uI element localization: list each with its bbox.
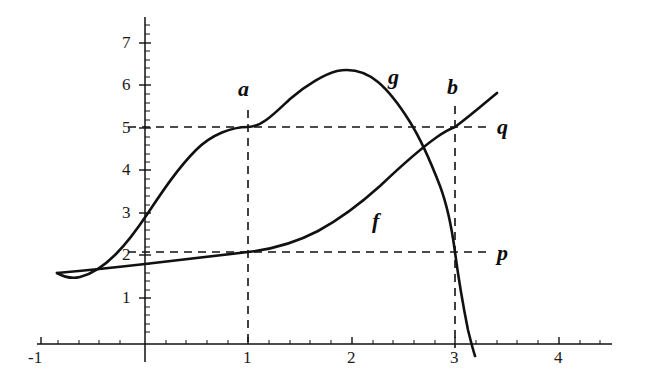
y-tick-label-4: 4 bbox=[122, 160, 131, 180]
function-plot-figure: -1 1 2 3 4 1 2 3 4 5 6 7 a b p q f g bbox=[0, 0, 651, 391]
annotation-label-f: f bbox=[372, 208, 379, 234]
annotation-label-g: g bbox=[388, 64, 399, 90]
annotation-label-q: q bbox=[497, 114, 508, 140]
y-tick-label-5: 5 bbox=[122, 118, 131, 138]
y-tick-label-2: 2 bbox=[122, 245, 131, 265]
plot-canvas bbox=[0, 0, 651, 391]
annotation-label-b: b bbox=[447, 74, 458, 100]
y-tick-label-1: 1 bbox=[122, 288, 131, 308]
y-tick-label-6: 6 bbox=[122, 75, 131, 95]
x-tick-label-1: 1 bbox=[243, 348, 252, 368]
x-axis-major-ticks bbox=[41, 337, 559, 344]
x-tick-label-2: 2 bbox=[347, 348, 356, 368]
annotation-label-a: a bbox=[238, 76, 249, 102]
curve-g bbox=[57, 70, 475, 356]
x-tick-label-3: 3 bbox=[450, 348, 459, 368]
annotation-label-p: p bbox=[497, 240, 508, 266]
x-tick-label-4: 4 bbox=[554, 348, 563, 368]
y-tick-label-7: 7 bbox=[122, 33, 131, 53]
x-tick-label--1: -1 bbox=[28, 348, 42, 368]
y-tick-label-3: 3 bbox=[122, 203, 131, 223]
